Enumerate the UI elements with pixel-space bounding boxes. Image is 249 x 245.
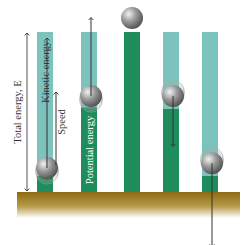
speed-label: Speed [56,108,67,134]
potential-energy-bar [202,176,218,192]
ball [121,7,143,29]
potential-energy-label: Potential energy [84,115,95,184]
energy-diagram: Total energy, E Kinetic energy Speed Pot… [0,0,249,245]
potential-energy-bar [124,32,140,192]
kinetic-energy-label: Kinetic energy [40,40,51,103]
ground [17,192,240,218]
potential-energy-bar [163,109,179,192]
total-energy-label: Total energy, E [12,80,23,143]
